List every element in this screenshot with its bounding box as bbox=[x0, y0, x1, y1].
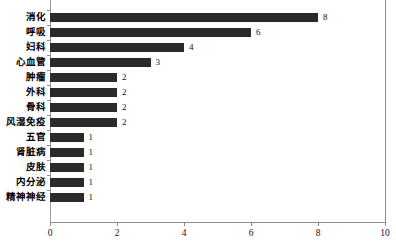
bar-row: 1 bbox=[50, 145, 385, 160]
bar-chart: 消化呼吸妇科心血管肿瘤外科骨科风湿免疫五官肾脏病皮肤内分泌精神神经 864322… bbox=[0, 0, 396, 248]
y-axis-tick-mark bbox=[47, 55, 50, 56]
bar bbox=[50, 28, 251, 37]
y-axis-tick-mark bbox=[47, 100, 50, 101]
bar-value-label: 1 bbox=[89, 145, 94, 160]
category-label: 肿瘤 bbox=[0, 70, 46, 85]
bar bbox=[50, 43, 184, 52]
bar-row: 1 bbox=[50, 130, 385, 145]
plot-area: 8643222211111 bbox=[50, 0, 385, 222]
y-axis-tick-mark bbox=[47, 190, 50, 191]
category-label: 内分泌 bbox=[0, 175, 46, 190]
y-axis-tick-mark bbox=[47, 25, 50, 26]
x-axis-tick-label: 2 bbox=[107, 227, 127, 239]
bar-value-label: 2 bbox=[122, 85, 127, 100]
y-axis-tick-mark bbox=[47, 40, 50, 41]
category-label: 精神神经 bbox=[0, 190, 46, 205]
bar-value-label: 8 bbox=[323, 10, 328, 25]
x-axis-tick-label: 10 bbox=[375, 227, 395, 239]
x-axis-tick-label: 8 bbox=[308, 227, 328, 239]
x-axis-tick-label: 0 bbox=[40, 227, 60, 239]
bar bbox=[50, 88, 117, 97]
bar bbox=[50, 58, 151, 67]
bar bbox=[50, 148, 84, 157]
category-label: 外科 bbox=[0, 85, 46, 100]
y-axis-tick-mark bbox=[47, 175, 50, 176]
bar-row: 1 bbox=[50, 160, 385, 175]
plot-right-border bbox=[385, 0, 386, 222]
bar-row: 2 bbox=[50, 115, 385, 130]
bar bbox=[50, 118, 117, 127]
bar bbox=[50, 193, 84, 202]
bar-value-label: 2 bbox=[122, 115, 127, 130]
category-label: 皮肤 bbox=[0, 160, 46, 175]
bar-value-label: 2 bbox=[122, 100, 127, 115]
category-label: 消化 bbox=[0, 10, 46, 25]
y-axis-tick-mark bbox=[47, 160, 50, 161]
x-axis-tick-mark bbox=[385, 223, 386, 226]
bar-value-label: 1 bbox=[89, 175, 94, 190]
bar bbox=[50, 178, 84, 187]
bar-row: 3 bbox=[50, 55, 385, 70]
category-label: 风湿免疫 bbox=[0, 115, 46, 130]
x-axis-tick-label: 4 bbox=[174, 227, 194, 239]
x-axis-tick-label: 6 bbox=[241, 227, 261, 239]
bar-value-label: 1 bbox=[89, 130, 94, 145]
category-label: 呼吸 bbox=[0, 25, 46, 40]
bar-row: 6 bbox=[50, 25, 385, 40]
bar bbox=[50, 73, 117, 82]
category-label: 五官 bbox=[0, 130, 46, 145]
bar-value-label: 1 bbox=[89, 160, 94, 175]
bar-row: 2 bbox=[50, 70, 385, 85]
bar-value-label: 3 bbox=[156, 55, 161, 70]
category-label: 肾脏病 bbox=[0, 145, 46, 160]
y-axis-tick-mark bbox=[47, 85, 50, 86]
y-axis-tick-mark bbox=[47, 70, 50, 71]
x-axis-ticks: 0246810 bbox=[50, 223, 386, 245]
bar-row: 1 bbox=[50, 190, 385, 205]
bar bbox=[50, 163, 84, 172]
bar bbox=[50, 13, 318, 22]
bar-value-label: 1 bbox=[89, 190, 94, 205]
x-axis-tick-mark bbox=[117, 223, 118, 226]
category-label: 骨科 bbox=[0, 100, 46, 115]
y-axis-tick-mark bbox=[47, 145, 50, 146]
bar-row: 8 bbox=[50, 10, 385, 25]
x-axis-tick-mark bbox=[251, 223, 252, 226]
bar bbox=[50, 103, 117, 112]
bar-row: 1 bbox=[50, 175, 385, 190]
bar bbox=[50, 133, 84, 142]
y-axis-tick-mark bbox=[47, 10, 50, 11]
category-label: 妇科 bbox=[0, 40, 46, 55]
category-axis-labels: 消化呼吸妇科心血管肿瘤外科骨科风湿免疫五官肾脏病皮肤内分泌精神神经 bbox=[0, 0, 46, 222]
bar-value-label: 2 bbox=[122, 70, 127, 85]
category-label: 心血管 bbox=[0, 55, 46, 70]
x-axis-tick-mark bbox=[50, 223, 51, 226]
x-axis-tick-mark bbox=[184, 223, 185, 226]
y-axis-tick-mark bbox=[47, 115, 50, 116]
x-axis-tick-mark bbox=[318, 223, 319, 226]
bar-row: 4 bbox=[50, 40, 385, 55]
bar-value-label: 4 bbox=[189, 40, 194, 55]
bar-row: 2 bbox=[50, 100, 385, 115]
bar-value-label: 6 bbox=[256, 25, 261, 40]
y-axis-tick-mark bbox=[47, 130, 50, 131]
bar-row: 2 bbox=[50, 85, 385, 100]
